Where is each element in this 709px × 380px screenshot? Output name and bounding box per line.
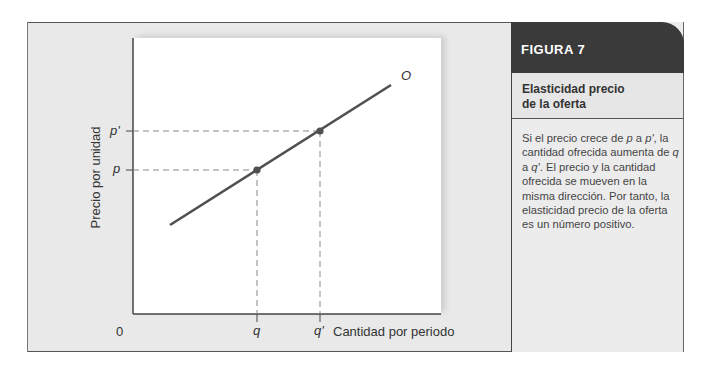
y-tick-label-p: p (113, 161, 120, 176)
caption-var: q' (531, 161, 539, 173)
figure-header: FIGURA 7 (511, 22, 684, 73)
figure-title-box: Elasticidad precio de la oferta (512, 73, 683, 119)
figure-title-line1: Elasticidad precio (522, 82, 625, 96)
supply-curve (170, 85, 391, 225)
figure-title: Elasticidad precio de la oferta (522, 82, 672, 112)
point-q-p (253, 166, 260, 173)
figure-title-line2: de la oferta (522, 97, 586, 111)
caption-text: . El precio y la cantidad ofrecida se mu… (522, 161, 669, 231)
caption-text: a (522, 161, 531, 173)
x-tick-label-q: q (253, 323, 260, 338)
x-tick-label-q-prime: q' (314, 323, 324, 338)
point-q-prime-p-prime (316, 127, 323, 134)
figure-number: FIGURA 7 (521, 42, 585, 57)
figure-caption: Si el precio crece de p a p', la cantida… (522, 131, 680, 232)
caption-text: a (633, 132, 645, 144)
y-tick-label-p-prime: p' (110, 123, 120, 138)
x-axis-label: Cantidad por periodo (333, 324, 454, 339)
caption-text: Si el precio crece de (522, 132, 626, 144)
caption-var: q (673, 146, 679, 158)
caption-var: p' (645, 132, 653, 144)
y-axis-label: Precio por unidad (88, 123, 103, 233)
curve-label-o: O (401, 68, 411, 83)
origin-label: 0 (116, 324, 123, 339)
